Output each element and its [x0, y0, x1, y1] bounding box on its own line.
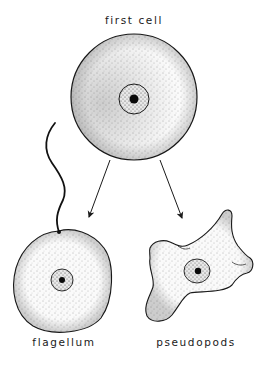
label-pseudopods: pseudopods: [156, 336, 236, 348]
flagellum-whip: [46, 123, 65, 232]
flagellate-cell-nucleolus: [59, 277, 65, 283]
arrow-to-flagellate: [89, 160, 110, 217]
flagellate-cell: [14, 123, 112, 332]
label-first-cell: first cell: [105, 14, 163, 26]
amoeboid-cell-nucleolus: [195, 268, 201, 274]
first-cell: [71, 34, 197, 160]
cell-evolution-diagram: [0, 0, 264, 365]
first-cell-nucleolus: [130, 95, 139, 104]
arrow-to-amoeboid: [160, 160, 182, 218]
label-flagellum: flagellum: [32, 336, 95, 348]
amoeboid-cell: [146, 210, 253, 321]
